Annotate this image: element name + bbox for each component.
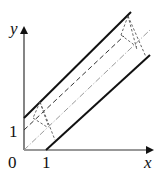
dashed-axis-line <box>24 36 124 130</box>
y-tick-label: 1 <box>9 122 18 141</box>
x-axis-label: x <box>143 153 152 172</box>
lower-boundary-line <box>46 55 150 150</box>
x-tick-label: 1 <box>42 153 51 172</box>
diagram-canvas: y x 0 1 1 <box>0 0 162 177</box>
origin-label: 0 <box>8 153 17 172</box>
lower-cross-section <box>33 102 55 140</box>
upper-cross-section <box>121 16 146 57</box>
dash-dot-diagonal-line <box>24 30 150 150</box>
y-axis-label: y <box>8 19 18 38</box>
